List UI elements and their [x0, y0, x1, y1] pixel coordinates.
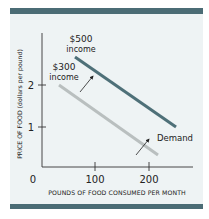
- x-tick-label-200: 200: [139, 174, 158, 185]
- x-axis-label: POUNDS OF FOOD CONSUMED PER MONTH: [48, 189, 186, 196]
- demand-shift-chart: 2 1 0 100 200 POUNDS OF FOOD CONSUMED PE…: [0, 0, 209, 219]
- bottom-band: [10, 204, 203, 209]
- y-tick-label-1: 1: [28, 122, 34, 133]
- label-300-amount: $300: [53, 62, 76, 72]
- label-300-income: income: [49, 73, 78, 82]
- y-tick-label-2: 2: [28, 80, 34, 91]
- top-band: [10, 8, 203, 14]
- chart-panel: [10, 9, 203, 207]
- y-axis-label: PRICE OF FOOD (dollars per pound): [16, 49, 24, 159]
- x-tick-label-0: 0: [30, 174, 36, 185]
- label-500-amount: $500: [70, 34, 93, 44]
- x-tick-label-100: 100: [85, 174, 104, 185]
- label-500-income: income: [66, 45, 95, 54]
- demand-label: Demand: [157, 133, 193, 143]
